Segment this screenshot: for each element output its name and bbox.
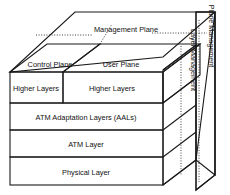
atm-layer-label: ATM Layer	[68, 140, 104, 149]
cube-canvas: Management Plane Control Plane User Plan…	[0, 0, 230, 195]
physical-layer-label: Physical Layer	[62, 168, 111, 177]
higher-layers-control-label: Higher Layers	[13, 84, 59, 93]
user-plane-label: User Plane	[103, 60, 140, 69]
higher-layers-user-label: Higher Layers	[89, 84, 135, 93]
layer-management-label: Layer Management	[189, 29, 198, 91]
aal-label: ATM Adaptation Layers (AALs)	[36, 113, 137, 122]
control-plane-label: Control Plane	[28, 60, 73, 69]
management-plane-label: Management Plane	[94, 25, 158, 34]
plane-management-label: Plane Management	[207, 5, 216, 67]
atm-protocol-reference-model-diagram: Management Plane Control Plane User Plan…	[0, 0, 230, 195]
